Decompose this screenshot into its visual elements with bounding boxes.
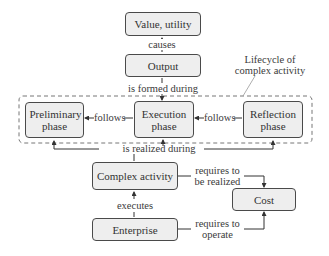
execution-text: Execution phase: [139, 108, 189, 132]
node-enterprise: Enterprise: [92, 218, 178, 241]
edge-label-requires-operate-2: operate: [191, 229, 244, 240]
reflection-text: Reflection phase: [248, 108, 298, 132]
edge-label-executes: executes: [112, 200, 158, 211]
node-execution-phase: Execution phase: [134, 101, 194, 138]
node-cost: Cost: [232, 188, 296, 211]
preliminary-text: Preliminary phase: [30, 108, 80, 132]
edge-label-requires-realized-2: be realized: [191, 176, 244, 187]
edge-label-requires-operate-1: requires to: [191, 218, 244, 229]
edge-label-causes: causes: [143, 39, 181, 50]
edge-label-follows-left: follows: [94, 112, 124, 123]
group-label-line2: complex activity: [228, 65, 312, 76]
node-output: Output: [125, 54, 201, 77]
edge-label-realized-during: is realized during: [114, 143, 204, 154]
node-reflection-phase: Reflection phase: [243, 101, 303, 138]
node-value-utility: Value, utility: [125, 12, 201, 36]
node-complex-activity: Complex activity: [92, 162, 178, 190]
node-preliminary-phase: Preliminary phase: [25, 102, 84, 138]
edge-label-formed-during: is formed during: [125, 83, 201, 94]
edge-label-follows-right: follows: [204, 112, 234, 123]
group-label-line1: Lifecycle of: [232, 54, 308, 65]
edge-label-requires-realized-1: requires to: [191, 165, 244, 176]
